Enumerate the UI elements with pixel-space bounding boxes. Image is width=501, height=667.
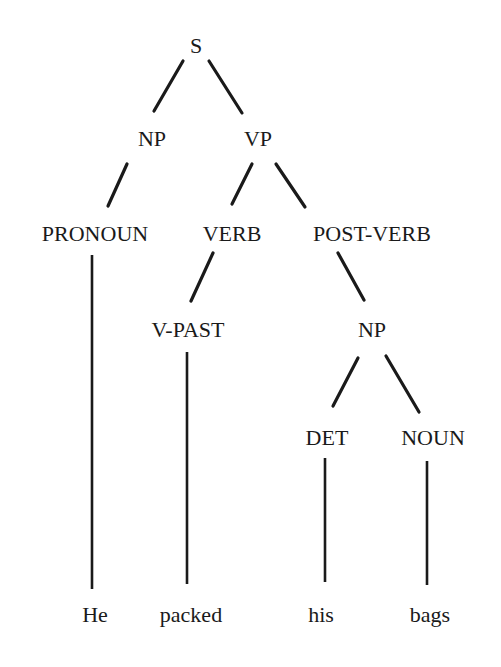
word-he: He — [82, 602, 108, 627]
tree-stems — [92, 255, 427, 589]
edge-s-vp — [209, 61, 242, 113]
node-det: DET — [306, 425, 349, 450]
edge-np-det — [333, 358, 358, 406]
node-np-object: NP — [358, 317, 386, 342]
word-his: his — [308, 602, 334, 627]
node-s: S — [190, 33, 202, 58]
node-v-past: V-PAST — [152, 317, 226, 342]
edge-verb-vpast — [191, 253, 213, 301]
node-noun: NOUN — [401, 425, 465, 450]
edge-vp-verb — [232, 164, 252, 204]
node-pronoun: PRONOUN — [42, 221, 148, 246]
node-vp: VP — [244, 126, 272, 151]
edge-s-np — [154, 61, 183, 111]
word-bags: bags — [410, 602, 450, 627]
node-verb: VERB — [203, 221, 262, 246]
edge-np-pronoun — [108, 164, 127, 206]
node-post-verb: POST-VERB — [313, 221, 431, 246]
node-np-subject: NP — [138, 126, 166, 151]
parse-tree-diagram: S NP VP PRONOUN VERB POST-VERB V-PAST NP… — [0, 0, 501, 667]
edge-np-noun — [386, 356, 419, 412]
tree-labels: S NP VP PRONOUN VERB POST-VERB V-PAST NP… — [42, 33, 465, 627]
edge-postverb-np — [338, 253, 364, 300]
edge-vp-postverb — [276, 164, 305, 207]
word-packed: packed — [160, 602, 222, 627]
